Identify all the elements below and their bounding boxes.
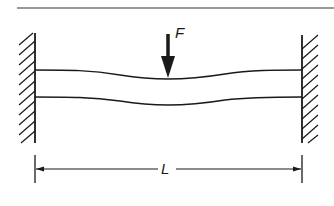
beam-diagram: F L [0, 0, 334, 206]
beam-bottom-edge [35, 97, 302, 105]
length-label: L [161, 160, 169, 177]
right-fixed-support [302, 35, 318, 143]
left-fixed-support [19, 33, 35, 143]
force-arrow [161, 34, 175, 78]
force-label: F [175, 24, 185, 41]
